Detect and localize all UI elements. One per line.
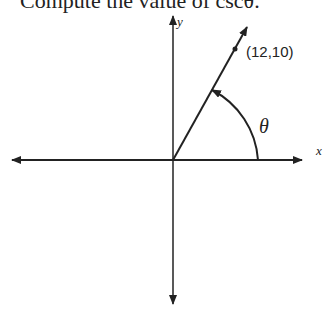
angle-label: θ: [259, 115, 269, 137]
point-label: (12,10): [246, 43, 294, 60]
angle-arc: [212, 90, 258, 160]
x-axis-label: x: [315, 143, 322, 158]
y-axis-label: y: [175, 14, 183, 29]
point-marker: [233, 47, 238, 52]
coordinate-diagram: (12,10) θ x y: [0, 0, 327, 314]
